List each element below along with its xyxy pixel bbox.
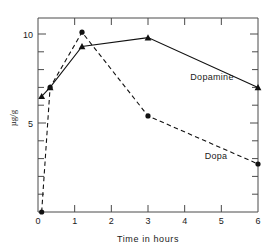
data-point-dopa — [255, 161, 260, 166]
x-tick-label-4: 4 — [182, 216, 187, 226]
x-tick-label-3: 3 — [145, 216, 150, 226]
series-label-dopa: Dopa — [205, 151, 228, 161]
line-chart: 10 5 0 1 2 3 4 5 6 Time in hours µg/g — [0, 0, 273, 250]
data-point-dopamine — [145, 34, 152, 40]
data-point-dopa — [145, 113, 150, 118]
series-dopa — [39, 30, 261, 215]
x-axis-ticks-bottom — [75, 205, 222, 212]
x-tick-label-5: 5 — [219, 216, 224, 226]
data-point-dopa — [79, 30, 84, 35]
x-tick-label-6: 6 — [255, 216, 260, 226]
x-tick-label-1: 1 — [72, 216, 77, 226]
x-axis-ticks-top — [75, 18, 222, 25]
x-axis-title: Time in hours — [117, 234, 179, 244]
data-point-dopa — [39, 209, 44, 214]
y-axis-title: µg/g — [8, 109, 18, 126]
series-dopa-line — [42, 32, 258, 212]
y-tick-label-5: 5 — [28, 119, 33, 129]
x-tick-label-2: 2 — [109, 216, 114, 226]
y-tick-label-10: 10 — [23, 30, 33, 40]
series-dopamine — [38, 34, 261, 99]
series-label-dopamine: Dopamine — [190, 72, 233, 82]
chart-figure: 10 5 0 1 2 3 4 5 6 Time in hours µg/g — [0, 0, 273, 250]
x-tick-label-0: 0 — [35, 216, 40, 226]
y-axis-ticks-right — [250, 34, 258, 194]
